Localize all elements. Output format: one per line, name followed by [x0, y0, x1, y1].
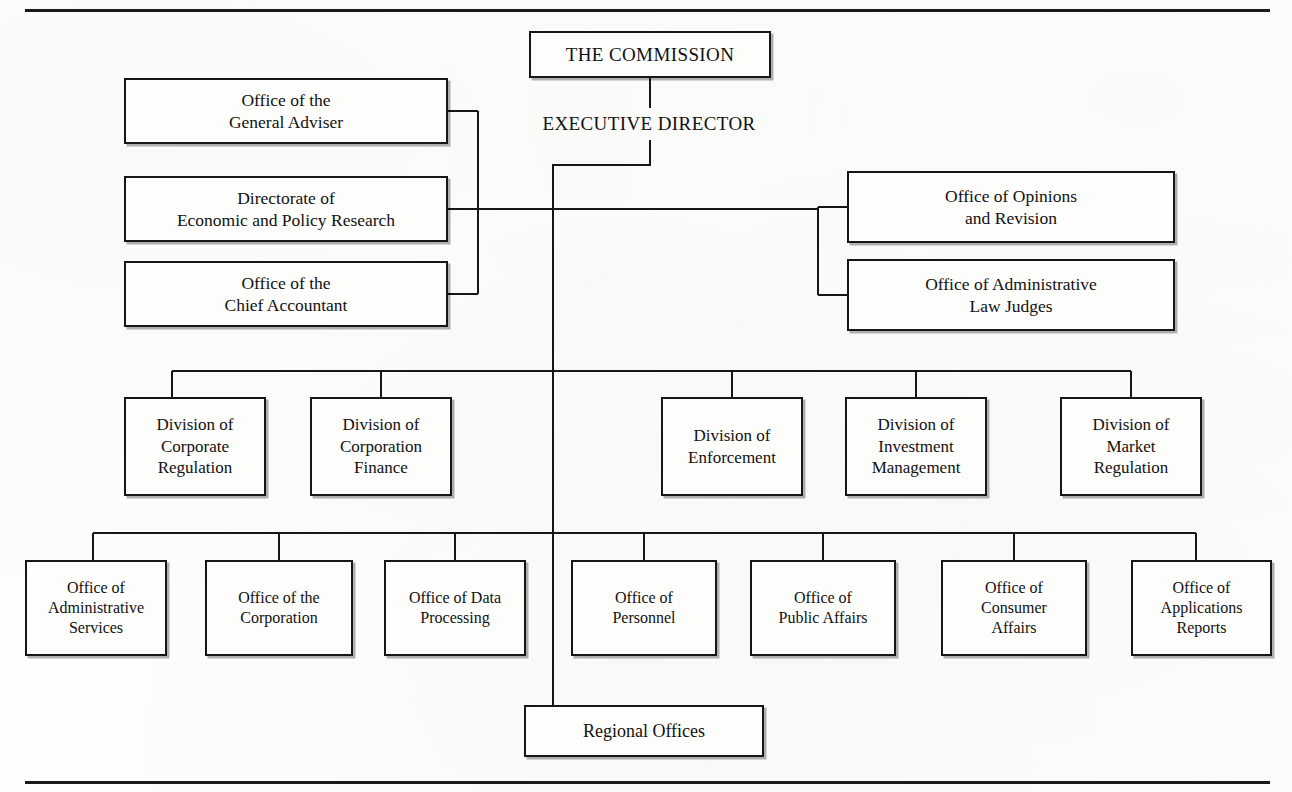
- node-label: Division of Corporate Regulation: [151, 414, 240, 478]
- node-label: Office of Administrative Services: [42, 578, 150, 638]
- org-chart-page: THE COMMISSION EXECUTIVE DIRECTOR Office…: [0, 0, 1292, 792]
- node-directorate-of-economic-and-policy-research[interactable]: Directorate of Economic and Policy Resea…: [124, 176, 448, 242]
- node-the-commission[interactable]: THE COMMISSION: [529, 31, 771, 78]
- node-office-of-the-chief-accountant[interactable]: Office of the Chief Accountant: [124, 261, 448, 327]
- node-office-of-data-processing[interactable]: Office of Data Processing: [384, 560, 526, 656]
- node-regional-offices[interactable]: Regional Offices: [524, 705, 764, 757]
- node-label: Office of the Corporation: [232, 588, 325, 628]
- node-label: Division of Market Regulation: [1087, 414, 1176, 478]
- node-division-of-corporation-finance[interactable]: Division of Corporation Finance: [310, 397, 452, 496]
- node-label: Office of Opinions and Revision: [939, 185, 1083, 229]
- node-label: Office of Personnel: [606, 588, 681, 628]
- node-office-of-personnel[interactable]: Office of Personnel: [571, 560, 717, 656]
- node-division-of-enforcement[interactable]: Division of Enforcement: [661, 397, 803, 496]
- node-office-of-consumer-affairs[interactable]: Office of Consumer Affairs: [941, 560, 1087, 656]
- node-label: EXECUTIVE DIRECTOR: [542, 113, 755, 135]
- node-executive-director[interactable]: EXECUTIVE DIRECTOR: [509, 108, 789, 140]
- node-office-of-administrative-law-judges[interactable]: Office of Administrative Law Judges: [847, 259, 1175, 331]
- node-label: Directorate of Economic and Policy Resea…: [171, 187, 401, 231]
- node-label: Office of the Chief Accountant: [219, 272, 354, 316]
- node-division-of-market-regulation[interactable]: Division of Market Regulation: [1060, 397, 1202, 496]
- node-label: Division of Enforcement: [682, 425, 782, 468]
- node-division-of-investment-management[interactable]: Division of Investment Management: [845, 397, 987, 496]
- node-label: Office of Consumer Affairs: [975, 578, 1053, 638]
- node-label: Office of the General Adviser: [223, 89, 349, 133]
- node-office-of-administrative-services[interactable]: Office of Administrative Services: [25, 560, 167, 656]
- node-label: Office of Public Affairs: [772, 588, 873, 628]
- node-office-of-the-general-adviser[interactable]: Office of the General Adviser: [124, 78, 448, 144]
- node-label: Office of Administrative Law Judges: [919, 273, 1103, 317]
- node-office-of-opinions-and-revision[interactable]: Office of Opinions and Revision: [847, 171, 1175, 243]
- node-label: Office of Applications Reports: [1155, 578, 1249, 638]
- node-label: Regional Offices: [577, 720, 711, 743]
- node-office-of-the-corporation[interactable]: Office of the Corporation: [205, 560, 353, 656]
- node-office-of-applications-reports[interactable]: Office of Applications Reports: [1131, 560, 1272, 656]
- node-label: Office of Data Processing: [403, 588, 507, 628]
- node-label: THE COMMISSION: [560, 43, 741, 67]
- node-label: Division of Investment Management: [866, 414, 967, 478]
- node-label: Division of Corporation Finance: [334, 414, 428, 478]
- node-office-of-public-affairs[interactable]: Office of Public Affairs: [750, 560, 896, 656]
- node-division-of-corporate-regulation[interactable]: Division of Corporate Regulation: [124, 397, 266, 496]
